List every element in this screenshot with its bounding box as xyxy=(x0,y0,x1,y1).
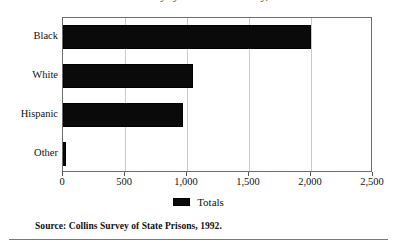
bar xyxy=(63,142,66,166)
chart-legend: Totals xyxy=(0,196,397,208)
x-axis-tick-label: 1,000 xyxy=(161,176,211,188)
chart-title: Prison Survey by Race and Ethnicity, 199… xyxy=(0,0,397,2)
bottom-divider xyxy=(9,239,388,240)
chart-figure: Prison Survey by Race and Ethnicity, 199… xyxy=(0,0,397,244)
y-axis-category-labels: BlackWhiteHispanicOther xyxy=(0,17,58,172)
category-label-white: White xyxy=(0,69,58,81)
gridline xyxy=(311,18,312,171)
legend-label-totals: Totals xyxy=(197,196,224,208)
source-note: Source: Collins Survey of State Prisons,… xyxy=(35,221,222,231)
bar xyxy=(63,25,311,49)
legend-swatch-totals xyxy=(173,198,190,206)
category-label-black: Black xyxy=(0,30,58,42)
bar xyxy=(63,64,193,88)
x-axis-tick-label: 2,000 xyxy=(285,176,335,188)
category-label-hispanic: Hispanic xyxy=(0,108,58,120)
bar xyxy=(63,103,183,127)
category-label-other: Other xyxy=(0,147,58,159)
x-axis-tick-label: 500 xyxy=(99,176,149,188)
x-axis-tick-label: 0 xyxy=(37,176,87,188)
x-axis-tick-label: 2,500 xyxy=(347,176,397,188)
plot-area xyxy=(62,17,372,172)
x-axis-tick-label: 1,500 xyxy=(223,176,273,188)
